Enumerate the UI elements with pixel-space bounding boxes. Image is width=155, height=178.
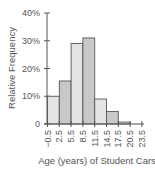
- y-axis-label: Relative Frequency: [6, 27, 17, 109]
- x-tick-label: 11.5: [90, 130, 100, 147]
- x-tick-label: 5.5: [66, 130, 76, 143]
- histogram-bar: [83, 38, 95, 124]
- x-tick-label: 14.5: [102, 130, 112, 148]
- y-tick-label: 10%: [22, 91, 40, 101]
- x-tick-label: 20.5: [125, 130, 135, 148]
- x-tick-label: 2.5: [54, 130, 64, 143]
- bars: [48, 38, 131, 124]
- y-tick-label: 20%: [22, 64, 40, 74]
- y-axis-ticks: 010%20%30%40%: [22, 8, 50, 129]
- histogram-bar: [95, 99, 107, 124]
- x-tick-label: 23.5: [137, 130, 147, 148]
- y-tick-label: 0: [35, 119, 40, 129]
- x-axis-label: Age (years) of Student Cars: [38, 155, 155, 166]
- y-tick-label: 30%: [22, 36, 40, 46]
- x-tick-label: −0.5: [43, 130, 53, 148]
- x-axis-ticks: −0.52.55.58.511.514.517.520.523.5: [43, 121, 147, 148]
- x-tick-label: 17.5: [113, 130, 123, 148]
- x-tick-label: 8.5: [78, 130, 88, 143]
- histogram-bar: [59, 81, 71, 124]
- histogram-bar: [71, 44, 83, 124]
- histogram-bar: [48, 96, 60, 124]
- histogram-chart: Relative Frequency 010%20%30%40% −0.52.5…: [0, 0, 155, 178]
- y-tick-label: 40%: [22, 8, 40, 18]
- histogram-bar: [107, 112, 119, 124]
